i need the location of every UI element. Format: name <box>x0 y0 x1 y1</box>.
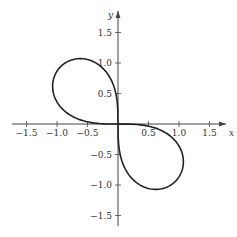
chart-svg: −1.5−1.0−0.50.51.01.51.51.00.5−0.5−1.0−1… <box>0 0 237 237</box>
x-tick-label: 1.0 <box>172 128 187 138</box>
x-axis-arrow-icon <box>219 122 226 127</box>
y-tick-label: −0.5 <box>90 150 112 160</box>
y-tick-label: 0.5 <box>98 89 113 99</box>
y-axis-arrow-icon <box>116 11 121 18</box>
x-tick-label: −1.5 <box>16 128 38 138</box>
x-tick-label: 1.5 <box>202 128 217 138</box>
x-axis-label: x <box>229 128 234 138</box>
x-tick-label: −1.0 <box>46 128 68 138</box>
y-axis-label: y <box>107 10 114 20</box>
y-tick-label: 1.5 <box>98 28 113 38</box>
plot-area: −1.5−1.0−0.50.51.01.51.51.00.5−0.5−1.0−1… <box>0 0 237 237</box>
x-tick-label: 0.5 <box>141 128 156 138</box>
y-tick-label: −1.0 <box>90 180 112 190</box>
x-tick-label: −0.5 <box>77 128 99 138</box>
y-tick-label: −1.5 <box>90 211 112 221</box>
